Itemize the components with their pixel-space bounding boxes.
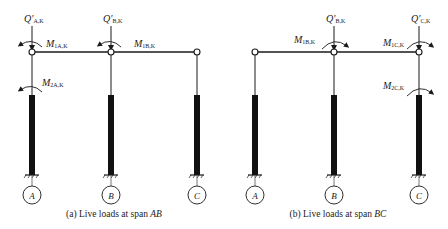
axis-bubble-a: A	[246, 186, 264, 204]
column-thick-b	[331, 95, 337, 175]
fixed-support-c	[189, 175, 204, 178]
fixed-support-a	[247, 175, 262, 178]
shear-label: Q'B,K	[103, 13, 123, 24]
svg-text:B: B	[108, 191, 114, 201]
joint-node	[416, 49, 422, 55]
shear-label: Q'A,K	[24, 13, 44, 24]
fixed-support-b	[103, 175, 118, 178]
caption-b: (b) Live loads at span BC	[290, 209, 387, 220]
caption-a: (a) Live loads at span AB	[66, 209, 162, 220]
svg-text:B: B	[331, 191, 337, 201]
fixed-support-b	[326, 175, 341, 178]
column-thick-a	[29, 95, 35, 175]
svg-text:A: A	[28, 191, 35, 201]
frame-diagram: A B C Q'A,K Q'B,K M1A,K	[0, 0, 448, 229]
joint-node	[29, 49, 35, 55]
moment-arrow-icon	[99, 41, 121, 47]
moment-label: M1C,K	[382, 37, 405, 48]
moment-label: M1B,K	[293, 34, 316, 45]
column-thick-c	[416, 95, 422, 175]
svg-text:C: C	[194, 191, 201, 201]
moment-label: M1B,K	[133, 38, 156, 49]
joint-node	[331, 49, 337, 55]
column-thick-a	[252, 95, 258, 175]
axis-bubble-b: B	[102, 186, 120, 204]
panel-a: A B C Q'A,K Q'B,K M1A,K	[20, 13, 206, 220]
moment-label: M1A,K	[45, 38, 68, 49]
joint-node	[252, 49, 258, 55]
shear-label: Q'C,K	[411, 13, 431, 24]
joint-node	[108, 49, 114, 55]
svg-text:A: A	[251, 191, 258, 201]
svg-text:C: C	[416, 191, 423, 201]
fixed-support-a	[24, 175, 39, 178]
joint-node	[194, 49, 200, 55]
axis-bubble-a: A	[23, 186, 41, 204]
column-thick-c	[194, 95, 200, 175]
fixed-support-c	[411, 175, 426, 178]
moment-arrow-icon	[20, 86, 42, 92]
shear-label: Q'B,K	[326, 13, 346, 24]
axis-bubble-b: B	[325, 186, 343, 204]
axis-bubble-c: C	[410, 186, 428, 204]
column-thick-b	[108, 95, 114, 175]
moment-label: M2A,K	[41, 77, 64, 88]
panel-b: A B C Q'B,K Q'C,K M1B,K M1C,K	[246, 13, 432, 220]
moment-arrow-icon	[20, 41, 42, 47]
moment-label: M2C,K	[382, 80, 405, 91]
axis-bubble-c: C	[188, 186, 206, 204]
